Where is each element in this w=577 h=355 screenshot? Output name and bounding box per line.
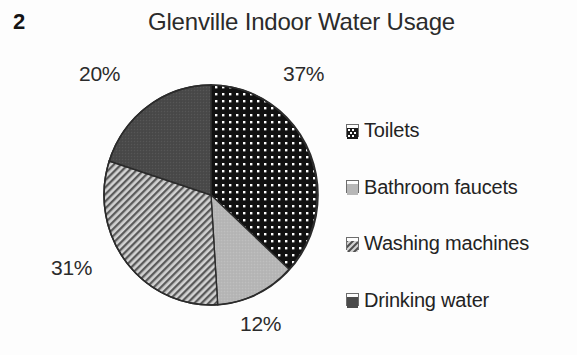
legend-swatch-hatch-icon [346,237,359,250]
figure-container: 2 Glenville Indoor Water Usage [0,0,577,355]
chart-legend: Toilets Bathroom faucets Washing machine… [346,102,571,328]
pie-chart [101,84,321,306]
legend-label-washing-machines: Washing machines [364,233,529,253]
legend-swatch-light-gray-icon [346,180,359,193]
legend-label-drinking-water: Drinking water [364,290,489,310]
legend-swatch-dotted-icon [346,124,359,137]
pie-chart-svg [101,84,321,306]
pie-label-bathroom-faucets: 12% [240,312,281,336]
legend-item-washing-machines: Washing machines [346,215,571,272]
legend-label-bathroom-faucets: Bathroom faucets [364,177,518,197]
chart-title: Glenville Indoor Water Usage [0,8,577,36]
pie-label-washing-machines: 31% [51,256,92,280]
legend-swatch-dark-gray-icon [346,293,359,306]
legend-label-toilets: Toilets [364,120,419,140]
pie-label-toilets: 37% [283,62,324,86]
legend-item-bathroom-faucets: Bathroom faucets [346,159,571,216]
pie-label-drinking-water: 20% [79,62,120,86]
legend-item-toilets: Toilets [346,102,571,159]
legend-item-drinking-water: Drinking water [346,272,571,329]
